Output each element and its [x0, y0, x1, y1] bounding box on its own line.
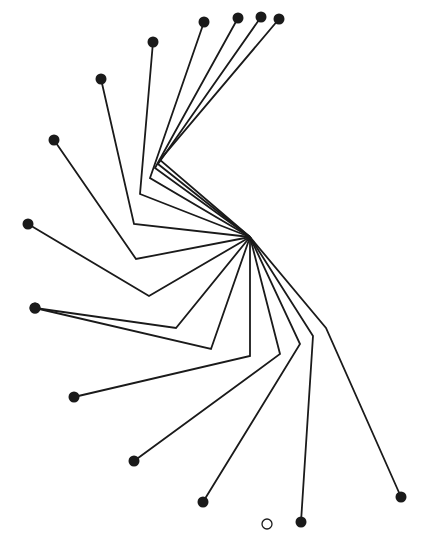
- branch-line: [250, 237, 313, 522]
- branch: [250, 237, 313, 528]
- hollow-node: [262, 519, 272, 529]
- branch: [158, 12, 267, 238]
- branch: [69, 237, 251, 403]
- branch-line: [250, 237, 401, 497]
- leaf-node: [296, 517, 307, 528]
- leaf-node: [274, 14, 285, 25]
- leaf-node: [256, 12, 267, 23]
- leaf-node: [49, 135, 60, 146]
- diagram-canvas: [0, 0, 425, 555]
- tree-diagram: [0, 0, 425, 555]
- branch: [23, 219, 251, 297]
- branch-line: [28, 224, 250, 296]
- leaf-node: [30, 303, 41, 314]
- branch-line: [155, 18, 250, 237]
- leaf-node: [148, 37, 159, 48]
- leaf-node: [69, 392, 80, 403]
- branch: [30, 237, 251, 349]
- branch: [250, 237, 407, 503]
- leaf-node: [129, 456, 140, 467]
- branch-line: [140, 42, 250, 237]
- leaf-node: [23, 219, 34, 230]
- branch: [96, 74, 251, 238]
- leaf-node: [199, 17, 210, 28]
- leaf-node: [396, 492, 407, 503]
- leaf-node: [198, 497, 209, 508]
- branch-line: [35, 237, 250, 328]
- leaf-node: [96, 74, 107, 85]
- branch-line: [158, 17, 261, 237]
- branch-line: [134, 237, 280, 461]
- branch: [129, 237, 281, 467]
- branch: [140, 37, 250, 238]
- leaf-node: [233, 13, 244, 24]
